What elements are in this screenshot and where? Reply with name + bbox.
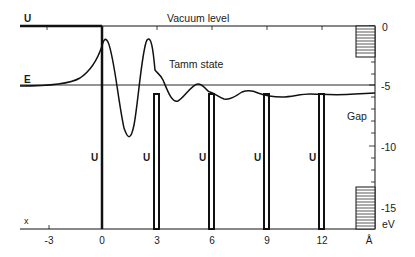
barrier-U-label-4: U xyxy=(309,152,316,163)
x-unit-label: Å xyxy=(366,234,373,246)
barrier-1 xyxy=(154,94,159,229)
tamm-state-label: Tamm state xyxy=(169,58,223,70)
svg-text:-5: -5 xyxy=(381,80,390,92)
barrier-3 xyxy=(264,94,269,229)
vacuum-level-label: Vacuum level xyxy=(167,12,229,24)
upper-band xyxy=(356,26,375,57)
svg-text:0: 0 xyxy=(382,21,388,33)
svg-text:-3: -3 xyxy=(45,235,54,246)
potential-U-label: U xyxy=(24,13,31,24)
barrier-U-label-2: U xyxy=(199,152,206,163)
energy-E-label: E xyxy=(24,74,31,85)
tamm-state-diagram: U E Vacuum level Tamm state Gap U U U U … xyxy=(0,0,415,257)
barrier-4 xyxy=(319,94,324,229)
barrier-U-label-3: U xyxy=(254,152,261,163)
svg-text:0: 0 xyxy=(99,235,105,246)
barriers xyxy=(154,94,324,229)
barrier-U-label-1: U xyxy=(143,152,150,163)
barrier-2 xyxy=(209,94,214,229)
lower-band xyxy=(356,187,375,229)
y-tick-labels: 0 -5 -10 -15 xyxy=(381,21,396,214)
svg-text:-15: -15 xyxy=(381,202,396,214)
svg-text:-10: -10 xyxy=(381,141,396,153)
y-unit-label: eV xyxy=(382,218,395,230)
gap-label: Gap xyxy=(347,110,367,122)
svg-text:12: 12 xyxy=(316,235,328,246)
svg-text:6: 6 xyxy=(209,235,215,246)
x-axis-label: x xyxy=(24,216,29,226)
svg-text:9: 9 xyxy=(264,235,270,246)
x-tick-labels: -3 0 3 6 9 12 xyxy=(45,235,328,246)
barrier-U-label-0: U xyxy=(91,152,98,163)
svg-text:3: 3 xyxy=(154,235,160,246)
